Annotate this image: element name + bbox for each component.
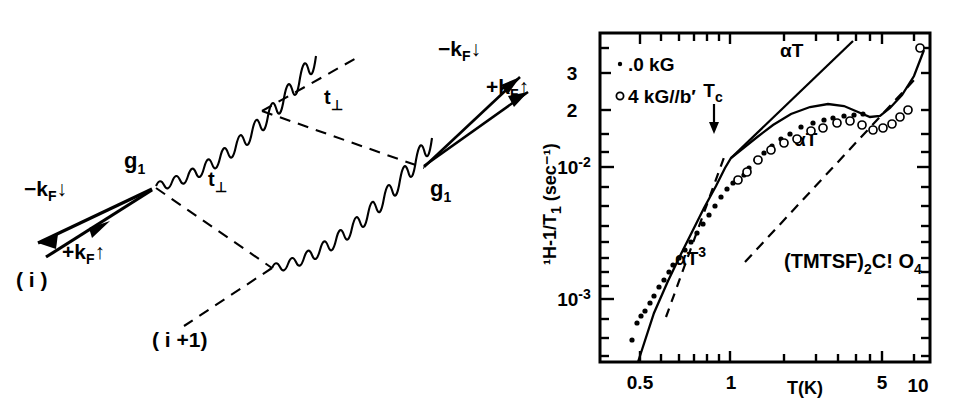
legend-marker-0kG bbox=[618, 62, 622, 66]
annotation-alpha-t-upper: αT bbox=[780, 40, 804, 61]
legend-label-4kG: 4 kG//b′ bbox=[628, 86, 696, 107]
plot-svg: ¹H-1/T1 (sec⁻¹) bbox=[528, 0, 955, 413]
y-tick-label-1e-2: 10-2 bbox=[557, 154, 591, 178]
y-tick-label-3: 3 bbox=[567, 63, 578, 84]
x-tick-label-5: 5 bbox=[877, 372, 888, 393]
y-tick-label-2: 2 bbox=[567, 100, 578, 121]
plot-frame bbox=[600, 33, 930, 362]
chain-i-label: ( i ) bbox=[16, 268, 48, 291]
x-tick-label-10: 10 bbox=[907, 375, 928, 396]
outgoing-upper-momentum-label: −kF↓ bbox=[438, 37, 481, 64]
t-perp-upper-label: t⊥ bbox=[324, 86, 343, 113]
outgoing-lower-momentum-label: +kF↑ bbox=[486, 75, 529, 102]
incoming-lower-momentum-label: +kF↑ bbox=[62, 240, 105, 267]
vertex-left-g1: g1 bbox=[124, 148, 145, 177]
legend-label-0kG: .0 kG bbox=[628, 54, 674, 75]
legend-marker-4kG bbox=[616, 92, 623, 99]
chain-i-plus-1-label: ( i +1) bbox=[152, 328, 207, 351]
figure-root: g1 g1 −kF↓ +kF↑ −kF↓ +kF↑ t⊥ bbox=[0, 0, 955, 413]
wavy-propagator-lower bbox=[272, 138, 432, 270]
y-tick-label-1e-3: 10-3 bbox=[557, 286, 591, 310]
diagram-svg: g1 g1 −kF↓ +kF↑ −kF↓ +kF↑ t⊥ bbox=[0, 0, 560, 413]
x-tick-label-1: 1 bbox=[726, 372, 737, 393]
x-axis-title: T(K) bbox=[787, 378, 823, 398]
t-perp-dashed-lines bbox=[156, 56, 424, 326]
y-axis-ticks bbox=[600, 48, 614, 356]
legend: .0 kG 4 kG//b′ bbox=[616, 54, 696, 107]
x-axis-ticks bbox=[640, 351, 914, 362]
y-axis-ticks-right bbox=[917, 48, 930, 356]
vertex-right-g1: g1 bbox=[430, 176, 451, 205]
incoming-upper-momentum-label: −kF↓ bbox=[24, 177, 67, 204]
t-perp-lower-label: t⊥ bbox=[208, 168, 227, 195]
nmr-relaxation-rate-plot: ¹H-1/T1 (sec⁻¹) bbox=[528, 0, 955, 413]
reference-line-alpha-t-middle bbox=[745, 78, 916, 262]
tc-arrow-head bbox=[709, 122, 719, 134]
interchain-pair-tunneling-diagram: g1 g1 −kF↓ +kF↑ −kF↓ +kF↑ t⊥ bbox=[0, 0, 560, 413]
x-tick-label-0-5: 0.5 bbox=[627, 372, 654, 393]
x-axis-ticks-top bbox=[640, 33, 914, 44]
tc-marker: Tc bbox=[703, 80, 723, 134]
wavy-propagator-upper bbox=[156, 56, 316, 188]
tc-label: Tc bbox=[703, 80, 723, 105]
sample-formula: (TMTSF)2C! O4 bbox=[784, 250, 922, 277]
